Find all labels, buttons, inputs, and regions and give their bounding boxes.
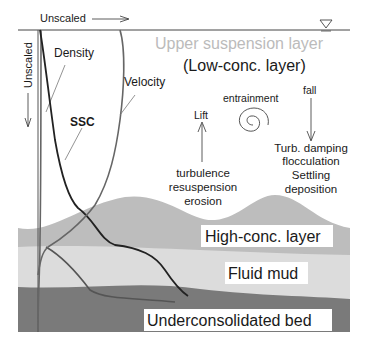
sediment-layer-diagram: Unscaled Unscaled Density SSC Velocity U… [0,0,367,350]
bed-label: Underconsolidated bed [147,312,312,329]
arrow-up-icon [198,122,206,162]
arrow-down-fall-icon [307,98,315,141]
density-label: Density [54,46,94,60]
upper-layer-subtitle: (Low-conc. layer) [183,57,306,74]
ssc-leader [65,128,82,160]
downward-processes: Turb. damping flocculation Settling depo… [274,142,348,195]
resuspension-label: resuspension [169,181,237,193]
erosion-label: erosion [184,195,222,207]
deposition-label: deposition [285,183,337,195]
settling-label: Settling [292,169,330,181]
high-conc-label: High-conc. layer [205,228,321,245]
upper-layer-title: Upper suspension layer [155,35,324,52]
vertical-axis-label: Unscaled [22,42,34,88]
horizontal-axis-label: Unscaled [40,12,86,24]
turb-damping-label: Turb. damping [274,142,348,154]
upward-processes: turbulence resuspension erosion [169,167,237,207]
turbulence-label: turbulence [176,167,230,179]
ssc-label: SSC [70,115,95,129]
velocity-label: Velocity [124,75,165,89]
arrow-down-icon [25,93,31,127]
spiral-icon [239,108,268,131]
lift-label: Lift [194,109,208,121]
water-level-icon [320,20,332,31]
arrow-right-icon [92,16,129,22]
flocculation-label: flocculation [282,155,340,167]
fluid-mud-label: Fluid mud [228,265,298,282]
fall-label: fall [303,84,316,96]
entrainment-label: entrainment [223,92,279,104]
